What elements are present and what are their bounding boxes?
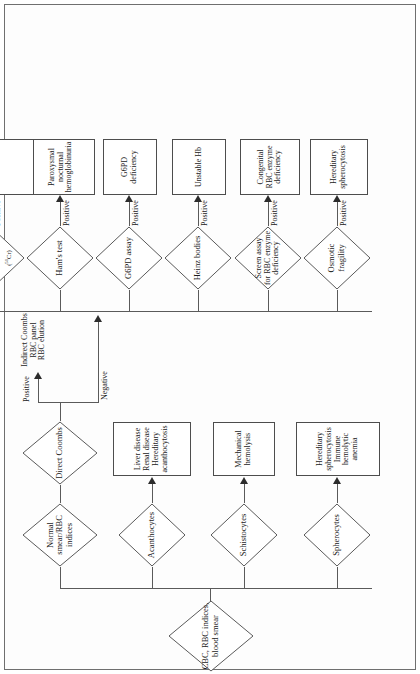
edge-hams-to-box: [60, 200, 61, 226]
node-direct-coombs[interactable]: Direct Coombs: [22, 421, 98, 485]
edge-rspine-to-hams: [60, 290, 61, 312]
edge-label-screen-positive: Positive: [270, 200, 279, 226]
edge-label-osmotic-positive: Positive: [339, 200, 348, 226]
node-decreased-rbc-survival[interactable]: Decreased RBC survival (51Cr): [0, 226, 25, 290]
box-heinz-result-label: Unstable Hb: [194, 145, 205, 189]
edge-spine-to-acanthocytes: [152, 567, 153, 589]
node-g6pd-assay-label: G6PD assay: [124, 235, 134, 281]
node-normal-smear-label: Normal smear/RBC indices: [46, 513, 75, 557]
arrowhead-schistocytes: [240, 477, 248, 484]
box-g6pd-result: G6PD deficiency: [103, 139, 157, 195]
node-g6pd-assay[interactable]: G6PD assay: [95, 226, 163, 290]
coombs-split-bar: [38, 402, 98, 403]
left-spine: [60, 588, 372, 589]
edge-label-g6pd-positive: Positive: [131, 200, 140, 226]
edge-screen-to-box: [268, 200, 269, 226]
node-schistocytes-label: Schistocytes: [239, 512, 249, 559]
node-screen-assay-label: Screen assay for RBC enzyme deficiency: [255, 229, 282, 287]
edge-spherocytes-to-box: [337, 481, 338, 503]
edge-normal-to-coombs: [60, 485, 61, 503]
arrowhead-spherocytes: [333, 477, 341, 484]
box-schistocytes-result-label: Mechanical hemolysis: [234, 428, 254, 469]
arrowhead-coombs-negative: [94, 315, 102, 322]
survival-sub-label: (51Cr): [5, 250, 12, 266]
edge-schistocytes-to-box: [244, 481, 245, 503]
box-coombs-positive-result-label: Indirect Coombs RBC panel RBC elution: [21, 313, 48, 367]
node-acanthocytes[interactable]: Acanthocytes: [118, 503, 186, 567]
flowchart-canvas: CBC, RBC indices, blood smear Spherocyte…: [0, 0, 420, 674]
arrowhead-coombs-positive: [34, 372, 42, 379]
node-acanthocytes-label: Acanthocytes: [147, 510, 157, 560]
edge-rspine-to-g6pd: [129, 290, 130, 312]
edge-label-coombs-positive: Positive: [22, 376, 31, 402]
flowchart-rotation-wrapper: CBC, RBC indices, blood smear Spherocyte…: [0, 0, 420, 674]
edge-g6pd-to-box: [129, 200, 130, 226]
node-spherocytes-label: Spherocytes: [332, 512, 342, 558]
node-spherocytes[interactable]: Spherocytes: [303, 503, 371, 567]
node-normal-smear[interactable]: Normal smear/RBC indices: [22, 503, 98, 567]
edge-spine-to-schistocytes: [244, 567, 245, 589]
edge-spine-to-spherocytes: [337, 567, 338, 589]
box-screen-result-label: Congenital RBC enzyme deficiency: [256, 144, 285, 191]
node-heinz-bodies-label: Heinz bodies: [193, 234, 203, 283]
box-osmotic-result-label: Hereditary spherocytosis: [329, 143, 349, 191]
box-schistocytes-result: Mechanical hemolysis: [213, 422, 275, 476]
box-acanthocytes-result: Liver disease Renal disease Hereditary a…: [113, 422, 191, 476]
box-heinz-result: Unstable Hb: [172, 139, 226, 195]
node-hams-test[interactable]: Ham's test: [26, 226, 94, 290]
box-screen-result: Congenital RBC enzyme deficiency: [240, 139, 300, 195]
node-osmotic-fragility-label: Osmotic fragility: [327, 242, 346, 275]
right-spine: [60, 311, 372, 312]
node-schistocytes[interactable]: Schistocytes: [210, 503, 278, 567]
node-heinz-bodies[interactable]: Heinz bodies: [164, 226, 232, 290]
node-screen-assay[interactable]: Screen assay for RBC enzyme deficiency: [234, 226, 302, 290]
box-osmotic-result: Hereditary spherocytosis: [310, 139, 368, 195]
edge-label-heinz-positive: Positive: [200, 200, 209, 226]
edge-label-hams-positive: Positive: [62, 200, 71, 226]
edge-coombs-negative: [98, 319, 99, 403]
node-hams-test-label: Ham's test: [55, 238, 65, 277]
edge-osmotic-to-box: [337, 200, 338, 226]
box-spherocytes-result-label: Hereditary spherocytosis Immune hemolyti…: [315, 425, 362, 473]
edge-rspine-to-screen: [268, 290, 269, 312]
box-g6pd-result-label: G6PD deficiency: [120, 148, 140, 185]
box-acanthocytes-result-label: Liver disease Renal disease Hereditary a…: [133, 423, 171, 474]
node-root-label: CBC, RBC indices, blood smear: [201, 601, 220, 672]
edge-coombs-out: [60, 403, 61, 421]
arrowhead-acanthocytes: [148, 477, 156, 484]
edge-rspine-to-heinz: [198, 290, 199, 312]
edge-spine-to-normal-smear: [60, 567, 61, 589]
edge-coombs-positive: [38, 377, 39, 403]
node-decreased-rbc-survival-label: Decreased RBC survival (51Cr): [0, 234, 14, 282]
edge-rspine-to-osmotic: [337, 290, 338, 312]
box-spherocytes-result: Hereditary spherocytosis Immune hemolyti…: [296, 422, 380, 476]
edge-acanthocytes-to-box: [152, 481, 153, 503]
node-osmotic-fragility[interactable]: Osmotic fragility: [303, 226, 371, 290]
edge-label-coombs-negative: Negative: [100, 371, 109, 400]
node-root[interactable]: CBC, RBC indices, blood smear: [168, 600, 254, 672]
edge-heinz-to-box: [198, 200, 199, 226]
box-survival-result: Hypersplenism/sequestration Others: [0, 139, 34, 195]
box-hams-result-label: Paroxysmal nocturnal hemoglobinuria: [47, 140, 76, 195]
box-hams-result: Paroxysmal nocturnal hemoglobinuria: [27, 139, 95, 195]
box-coombs-positive-result: Indirect Coombs RBC panel RBC elution: [10, 309, 58, 371]
edge-label-survival-positive: Positive: [0, 200, 2, 226]
node-direct-coombs-label: Direct Coombs: [55, 425, 65, 481]
